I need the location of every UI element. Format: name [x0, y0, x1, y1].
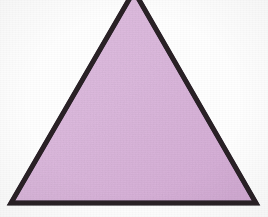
- triangle-figure-svg: [0, 0, 268, 217]
- figure-canvas: [0, 0, 268, 217]
